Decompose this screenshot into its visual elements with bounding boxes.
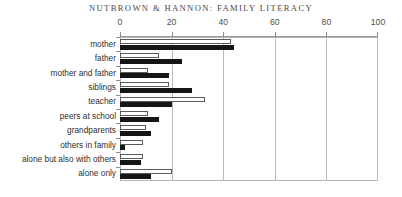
x-axis-line — [120, 36, 378, 37]
gridline-80 — [326, 37, 327, 181]
category-label: alone but also with others — [22, 154, 116, 164]
gridline-40 — [223, 37, 224, 181]
bar-series-1 — [120, 111, 148, 116]
category-tick — [116, 138, 120, 139]
x-tick-100 — [377, 32, 378, 37]
x-tick-label-80: 80 — [322, 17, 332, 27]
x-tick-60 — [275, 32, 276, 37]
category-tick — [116, 152, 120, 153]
category-tick — [116, 123, 120, 124]
bar-series-1 — [120, 154, 143, 159]
x-tick-label-0: 0 — [118, 17, 123, 27]
bar-series-1 — [120, 68, 148, 73]
chart-page: NUTBROWN & HANNON: FAMILY LITERACY mothe… — [0, 0, 402, 197]
gridline-100 — [377, 37, 378, 181]
bar-series-2 — [120, 117, 159, 122]
x-tick-20 — [172, 32, 173, 37]
bar-series-1 — [120, 169, 172, 174]
bar-chart: 020406080100 — [120, 37, 378, 181]
bar-series-1 — [120, 82, 169, 87]
category-label: mother and father — [51, 68, 117, 78]
category-label: teacher — [88, 96, 116, 106]
bar-series-2 — [120, 45, 234, 50]
category-label: peers at school — [60, 111, 116, 121]
bar-series-1 — [120, 125, 146, 130]
bar-series-2 — [120, 174, 151, 179]
bar-series-2 — [120, 88, 192, 93]
bar-series-1 — [120, 39, 231, 44]
category-label: siblings — [88, 82, 116, 92]
bar-series-2 — [120, 102, 172, 107]
x-tick-0 — [120, 32, 121, 37]
category-tick — [116, 37, 120, 38]
category-label: father — [95, 53, 116, 63]
gridline-60 — [275, 37, 276, 181]
bar-series-2 — [120, 59, 182, 64]
x-tick-label-100: 100 — [371, 17, 385, 27]
category-tick — [116, 80, 120, 81]
category-tick — [116, 109, 120, 110]
category-label: grandparents — [67, 125, 116, 135]
bar-series-1 — [120, 53, 159, 58]
x-tick-label-40: 40 — [218, 17, 228, 27]
category-label: others in family — [60, 140, 116, 150]
category-tick — [116, 167, 120, 168]
category-axis: motherfathermother and fathersiblingstea… — [0, 37, 116, 181]
category-label: alone only — [78, 168, 116, 178]
category-label: mother — [90, 39, 116, 49]
bar-series-2 — [120, 131, 151, 136]
category-tick — [116, 51, 120, 52]
category-tick — [116, 95, 120, 96]
bar-series-2 — [120, 145, 125, 150]
running-head-title: NUTBROWN & HANNON: FAMILY LITERACY — [0, 3, 402, 13]
x-tick-40 — [223, 32, 224, 37]
bar-series-1 — [120, 97, 205, 102]
bar-series-2 — [120, 160, 141, 165]
x-tick-label-20: 20 — [167, 17, 177, 27]
category-tick — [116, 66, 120, 67]
bar-series-1 — [120, 140, 143, 145]
x-tick-label-60: 60 — [270, 17, 280, 27]
x-tick-80 — [326, 32, 327, 37]
bar-series-2 — [120, 73, 169, 78]
